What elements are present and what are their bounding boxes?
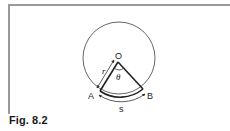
figure-caption: Fig. 8.2 — [9, 114, 48, 126]
radius-line-ob — [118, 62, 143, 89]
label-radius-r: r — [102, 66, 106, 76]
label-angle-theta: θ — [116, 72, 121, 82]
circle-sector-diagram: O r θ A B s — [0, 0, 230, 131]
label-center-o: O — [115, 51, 122, 61]
label-point-b: B — [147, 91, 153, 101]
angle-arc — [114, 68, 124, 70]
arc-ab — [100, 89, 143, 97]
label-point-a: A — [88, 91, 94, 101]
label-arc-length-s: s — [119, 104, 124, 114]
